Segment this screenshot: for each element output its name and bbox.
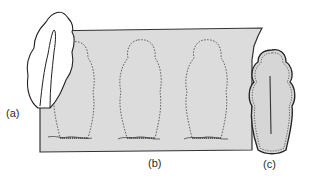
label-c: (c) [263, 158, 276, 170]
label-b: (b) [148, 157, 161, 169]
label-a: (a) [6, 107, 19, 119]
diagram: (a) (b) (c) [0, 0, 309, 179]
diagram-illustration [0, 0, 309, 179]
piece-c [249, 50, 295, 154]
